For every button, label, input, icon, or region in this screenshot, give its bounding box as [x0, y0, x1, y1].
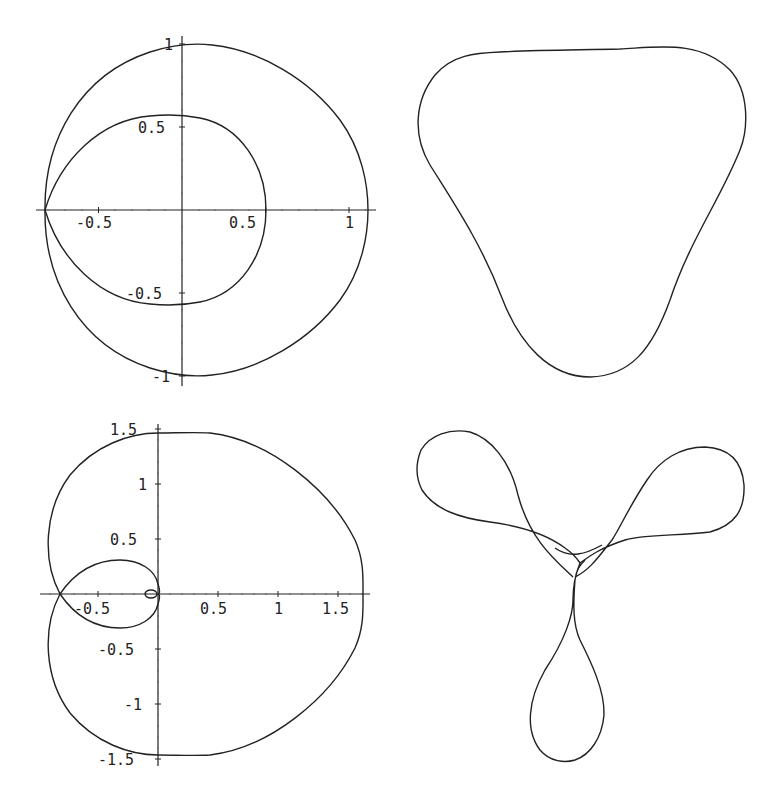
plot-limacon-loops-svg: -0.5 0.5 1 1.5 1.5	[0, 400, 390, 799]
x-tick-label: 0.5	[200, 600, 227, 618]
x-tick-label: 0.5	[229, 214, 256, 232]
plot-rounded-triangle	[390, 0, 781, 400]
plot-three-lobed-svg	[390, 400, 781, 799]
x-tick-label: 1	[345, 214, 354, 232]
y-tick-label: 1	[164, 36, 173, 54]
x-tick-label: 1.5	[322, 600, 349, 618]
rounded-triangle-curve	[418, 47, 746, 377]
x-tick-label: -0.5	[76, 214, 112, 232]
y-axis: 1.5 1 0.5 -0.5 -1 -1.5	[98, 421, 161, 769]
plot-limacon-loops: -0.5 0.5 1 1.5 1.5	[0, 400, 390, 799]
three-lobed-curve	[417, 431, 744, 762]
plot-three-lobed	[390, 400, 781, 799]
bottom-lobe	[530, 560, 604, 761]
left-lobe	[417, 431, 580, 577]
x-tick-label: 1	[274, 600, 283, 618]
y-tick-label: 1	[138, 476, 147, 494]
y-tick-label: 0.5	[110, 531, 137, 549]
y-tick-label: -1.5	[98, 751, 134, 769]
x-axis: -0.5 0.5 1	[36, 207, 376, 232]
x-axis: -0.5 0.5 1 1.5	[40, 591, 370, 618]
plot-nested-loops: -0.5 0.5 1 1 0.5 -0.5 -1	[0, 0, 390, 400]
y-tick-label: 0.5	[138, 119, 165, 137]
y-tick-label: -1	[124, 696, 142, 714]
plot-rounded-triangle-svg	[390, 0, 781, 400]
right-lobe	[575, 447, 744, 577]
plot-nested-loops-svg: -0.5 0.5 1 1 0.5 -0.5 -1	[0, 0, 390, 400]
y-tick-label: -0.5	[98, 641, 134, 659]
y-axis: 1 0.5 -0.5 -1	[126, 36, 185, 386]
